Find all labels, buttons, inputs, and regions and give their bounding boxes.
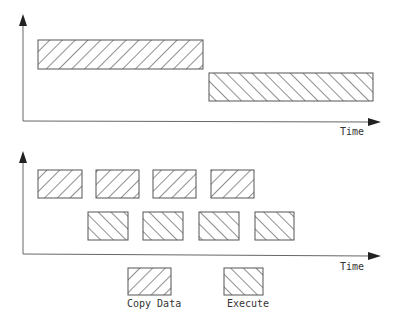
execute-block [199, 212, 239, 240]
bottom-x-arrow-icon [368, 252, 381, 260]
execute-block [143, 212, 183, 240]
top-x-axis [23, 121, 370, 122]
timeline-diagram: Time Time Copy Data Execute [0, 0, 395, 327]
legend: Copy Data Execute [127, 268, 269, 309]
copy-block [38, 170, 82, 198]
legend-copy-swatch [128, 268, 171, 295]
bottom-y-arrow-icon [19, 151, 27, 163]
top-time-label: Time [340, 126, 364, 137]
copy-block [38, 40, 203, 69]
execute-block [88, 212, 128, 240]
copy-block [153, 170, 196, 198]
top-y-arrow-icon [19, 14, 27, 26]
copy-block [96, 170, 139, 198]
top-panel: Time [19, 14, 381, 137]
bottom-time-label: Time [340, 261, 364, 272]
top-x-arrow-icon [368, 118, 381, 126]
legend-execute-swatch [224, 268, 263, 295]
legend-execute-label: Execute [227, 298, 269, 309]
execute-block [255, 212, 294, 240]
bottom-panel: Time [19, 151, 381, 272]
copy-block [211, 170, 254, 198]
legend-copy-label: Copy Data [127, 298, 181, 309]
bottom-x-axis [23, 254, 370, 256]
execute-block [209, 73, 373, 101]
